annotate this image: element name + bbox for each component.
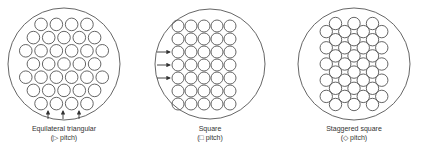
- shell-triangular: [8, 8, 120, 120]
- tube: [172, 59, 184, 71]
- tube: [329, 98, 341, 110]
- tube: [96, 71, 109, 84]
- tube: [50, 71, 63, 84]
- tube: [73, 58, 86, 71]
- tube: [27, 58, 40, 71]
- caption-subtitle: (◇ pitch): [309, 133, 399, 142]
- tube: [42, 31, 55, 44]
- tube: [81, 45, 94, 58]
- tube: [198, 59, 210, 71]
- tube: [211, 33, 223, 45]
- tube: [198, 98, 210, 110]
- tube: [88, 31, 101, 44]
- tube: [224, 98, 236, 110]
- tube: [58, 31, 71, 44]
- tube: [185, 33, 197, 45]
- flow-arrows-square: [157, 52, 170, 78]
- shell-staggered-square: [298, 8, 410, 120]
- tube: [81, 18, 94, 31]
- caption-square: Square (□ pitch): [170, 124, 250, 142]
- tube: [35, 71, 48, 84]
- caption-subtitle: (□ pitch): [170, 133, 250, 142]
- tube: [366, 98, 378, 110]
- tube: [211, 59, 223, 71]
- tube: [73, 31, 86, 44]
- tube: [19, 71, 32, 84]
- tube: [224, 20, 236, 32]
- tube: [65, 71, 78, 84]
- tube: [185, 98, 197, 110]
- tube: [50, 45, 63, 58]
- tube: [172, 72, 184, 84]
- tube: [198, 33, 210, 45]
- tube: [185, 20, 197, 32]
- tube: [50, 97, 63, 110]
- tube: [50, 18, 63, 31]
- tube: [27, 31, 40, 44]
- flow-arrows-triangular: [48, 111, 79, 119]
- tube: [198, 72, 210, 84]
- tube: [185, 46, 197, 58]
- tube: [211, 20, 223, 32]
- caption-title: Equilateral triangular: [14, 124, 114, 133]
- tube: [65, 97, 78, 110]
- tube: [211, 72, 223, 84]
- tube: [198, 46, 210, 58]
- tube: [185, 72, 197, 84]
- tube: [96, 45, 109, 58]
- caption-triangular: Equilateral triangular (▷ pitch): [14, 124, 114, 142]
- tube: [172, 20, 184, 32]
- tube: [19, 45, 32, 58]
- tube: [35, 45, 48, 58]
- tube: [172, 46, 184, 58]
- tube: [224, 33, 236, 45]
- tube: [58, 84, 71, 97]
- tube: [172, 33, 184, 45]
- tube: [27, 84, 40, 97]
- tube: [224, 85, 236, 97]
- tube: [185, 85, 197, 97]
- tube: [224, 72, 236, 84]
- tube: [73, 84, 86, 97]
- tube: [35, 18, 48, 31]
- tube: [81, 97, 94, 110]
- caption-title: Staggered square: [309, 124, 399, 133]
- tube-bundle-staggered-square: [320, 17, 388, 110]
- tube: [185, 59, 197, 71]
- tube: [198, 85, 210, 97]
- tube: [211, 85, 223, 97]
- tube: [58, 58, 71, 71]
- tube: [224, 46, 236, 58]
- tube: [211, 98, 223, 110]
- tube: [211, 46, 223, 58]
- tube: [42, 84, 55, 97]
- tube: [198, 20, 210, 32]
- tube: [224, 59, 236, 71]
- tube: [81, 71, 94, 84]
- tube: [65, 45, 78, 58]
- tube: [88, 84, 101, 97]
- tube: [172, 85, 184, 97]
- caption-subtitle: (▷ pitch): [14, 133, 114, 142]
- tube: [88, 58, 101, 71]
- caption-staggered-square: Staggered square (◇ pitch): [309, 124, 399, 142]
- tube-bundle-triangular: [19, 18, 108, 110]
- tube-bundle-square: [172, 20, 236, 110]
- caption-title: Square: [170, 124, 250, 133]
- tube: [35, 97, 48, 110]
- tube: [65, 18, 78, 31]
- tube: [348, 98, 360, 110]
- tube: [42, 58, 55, 71]
